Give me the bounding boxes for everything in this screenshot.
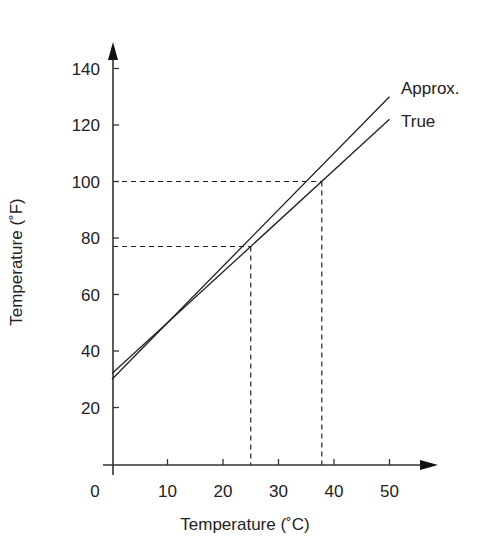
x-tick-label: 0 [90,482,99,501]
tick-labels: 2040608010012014001020304050Temperature … [7,60,460,535]
y-axis-arrow-icon [108,42,118,60]
x-tick-label: 50 [380,482,399,501]
y-tick-label: 20 [81,399,100,418]
x-tick-label: 30 [269,482,288,501]
y-tick-label: 40 [81,342,100,361]
axes [103,42,438,475]
x-axis-arrow-icon [420,460,438,470]
y-tick-label: 100 [72,173,100,192]
y-tick-label: 80 [81,229,100,248]
series-label: True [401,112,435,131]
x-tick-label: 20 [214,482,233,501]
x-tick-label: 40 [325,482,344,501]
x-tick-label: 10 [158,482,177,501]
y-tick-label: 60 [81,286,100,305]
series-label: Approx. [401,79,460,98]
chart: 2040608010012014001020304050Temperature … [0,0,483,559]
y-tick-label: 120 [72,116,100,135]
y-tick-label: 140 [72,60,100,79]
y-axis-title: Temperature (˚F) [7,198,26,326]
dashed-guides [113,182,322,466]
x-axis-title: Temperature (˚C) [180,515,309,534]
